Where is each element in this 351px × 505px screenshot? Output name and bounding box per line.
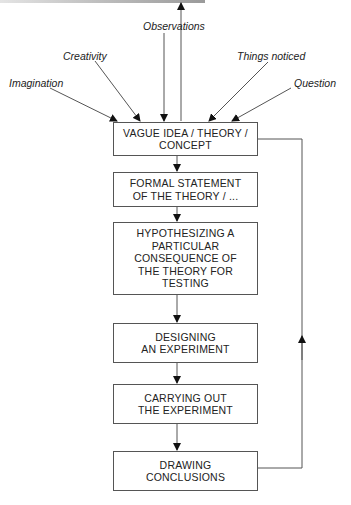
- step-hypothesizing: HYPOTHESIZING A PARTICULAR CONSEQUENCE O…: [113, 222, 258, 295]
- step-drawing-conclusions: DRAWING CONCLUSIONS: [113, 451, 258, 491]
- input-label-creativity: Creativity: [63, 50, 107, 62]
- step-formal-statement: FORMAL STATEMENT OF THE THEORY / ...: [113, 172, 258, 207]
- input-label-things-noticed: Things noticed: [237, 50, 305, 62]
- step-carrying-out-experiment: CARRYING OUT THE EXPERIMENT: [113, 384, 258, 424]
- input-label-observations: Observations: [143, 20, 205, 32]
- scientific-method-diagram: Imagination Creativity Observations Thin…: [0, 0, 351, 505]
- input-label-question: Question: [294, 77, 336, 89]
- step-designing-experiment: DESIGNING AN EXPERIMENT: [113, 323, 258, 363]
- arrow-question: [232, 88, 291, 121]
- feedback-loop-line: [257, 139, 302, 468]
- arrow-things-noticed: [209, 62, 268, 121]
- step-vague-idea: VAGUE IDEA / THEORY / CONCEPT: [113, 122, 258, 156]
- input-label-imagination: Imagination: [9, 77, 63, 89]
- arrow-imagination: [50, 88, 117, 121]
- arrow-creativity: [95, 61, 140, 121]
